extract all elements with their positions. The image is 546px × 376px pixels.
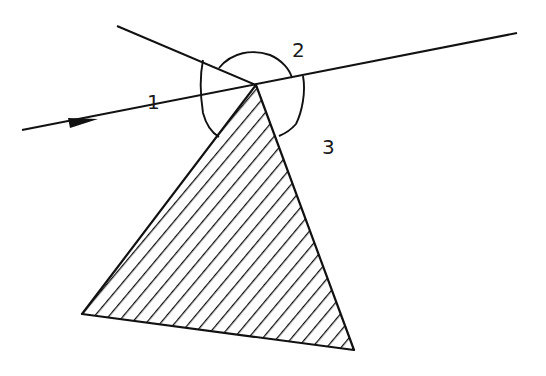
arrow-head-icon: [68, 118, 98, 128]
angle-1-label: 1: [147, 90, 160, 114]
hatched-triangle: [82, 85, 354, 350]
geometry-diagram: 1 2 3: [0, 0, 546, 376]
diagram-canvas: 1 2 3: [0, 0, 546, 376]
incident-ray: [22, 33, 517, 130]
angle-1-arc: [201, 60, 219, 137]
angle-3-label: 3: [322, 135, 335, 159]
angle-3-arc: [279, 76, 304, 136]
angle-2-label: 2: [292, 38, 305, 62]
